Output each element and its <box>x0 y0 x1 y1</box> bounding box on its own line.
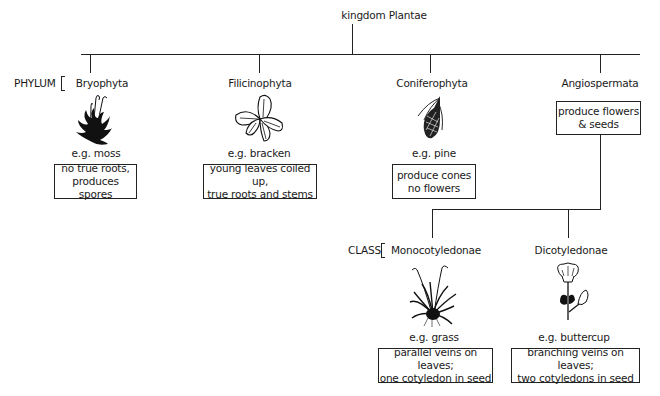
phylum-name-filicinophyta: Filicinophyta <box>228 77 291 90</box>
angiospermata-down-connector <box>600 134 601 210</box>
class-rank-label: CLASS <box>348 244 381 257</box>
phylum-bracket <box>61 76 65 91</box>
dicotyledonae-connector <box>568 209 569 238</box>
phylum-bar <box>81 54 640 55</box>
example-grass: e.g. grass <box>409 331 459 344</box>
grass-icon <box>408 262 458 328</box>
coniferophyta-connector <box>430 54 431 73</box>
class-name-dicotyledonae: Dicotyledonae <box>535 244 608 257</box>
angiospermata-description: produce flowers & seeds <box>556 101 641 135</box>
example-bracken: e.g. bracken <box>228 147 291 160</box>
phylum-name-coniferophyta: Coniferophyta <box>396 77 467 90</box>
dicotyledonae-description: branching veins on leaves; two cotyledon… <box>511 348 640 383</box>
phylum-name-angiospermata: Angiospermata <box>561 77 638 90</box>
class-name-monocotyledonae: Monocotyledonae <box>391 244 481 257</box>
filicinophyta-connector <box>259 54 260 73</box>
example-buttercup: e.g. buttercup <box>538 331 610 344</box>
kingdom-label: kingdom Plantae <box>341 9 426 22</box>
fern-icon <box>230 93 290 145</box>
moss-icon <box>72 92 114 148</box>
coniferophyta-description: produce cones no flowers <box>392 164 476 199</box>
buttercup-icon <box>550 262 590 328</box>
class-bracket <box>381 243 385 258</box>
pine-cone-icon <box>410 94 450 144</box>
monocotyledonae-description: parallel veins on leaves; one cotyledon … <box>378 348 493 383</box>
root-connector <box>352 24 353 55</box>
phylum-name-bryophyta: Bryophyta <box>76 77 128 90</box>
class-bar <box>432 209 601 210</box>
filicinophyta-description: young leaves coiled up, true roots and s… <box>203 164 317 199</box>
bryophyta-description: no true roots, produces spores <box>54 164 137 199</box>
angiospermata-connector <box>600 54 601 73</box>
example-pine: e.g. pine <box>412 147 456 160</box>
monocotyledonae-connector <box>432 209 433 238</box>
phylum-rank-label: PHYLUM <box>14 77 56 90</box>
example-moss: e.g. moss <box>72 147 121 160</box>
bryophyta-connector <box>90 54 91 73</box>
